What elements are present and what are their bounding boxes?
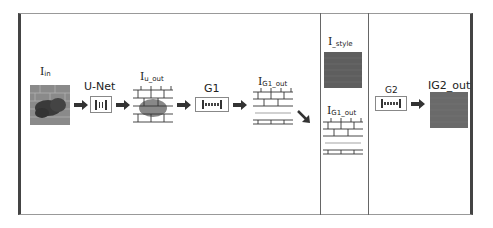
label-sub: G1_out <box>262 80 287 88</box>
label-sub: _style <box>332 40 352 48</box>
stage-divider-1 <box>320 13 321 215</box>
g2-block <box>375 96 407 111</box>
label-i-g1-out: IG1_out <box>258 75 287 88</box>
label-i-in: Iin <box>40 65 51 78</box>
diagonal-arrow-icon <box>297 110 311 124</box>
unet-block <box>90 96 112 113</box>
arrow-icon <box>74 100 88 110</box>
input-image-stained-brick <box>30 85 70 125</box>
label-i-g2-out: IG2_out <box>428 79 470 92</box>
g1-label: G1 <box>204 82 220 95</box>
diagram-frame <box>18 13 473 215</box>
g2-output-texture-image <box>430 92 468 128</box>
style-texture-image <box>324 52 362 88</box>
arrow-icon <box>411 99 425 109</box>
label-i-g1-out-stage2: IG1_out <box>327 104 356 117</box>
arrow-icon <box>116 100 130 110</box>
arrow-icon <box>177 100 191 110</box>
unet-output-brick-image <box>133 86 173 126</box>
label-sub: in <box>44 70 50 78</box>
unet-label: U-Net <box>84 80 115 93</box>
g2-label: G2 <box>385 85 398 95</box>
label-sub: G1_out <box>331 109 356 117</box>
label-i-style: I_style <box>328 35 353 48</box>
arrow-icon <box>233 100 247 110</box>
g1-block <box>195 97 229 112</box>
g1-output-brick-image-stage2 <box>323 118 363 156</box>
label-i-u-out: Iu_out <box>140 70 164 83</box>
label-sub: u_out <box>144 75 163 83</box>
g1-output-brick-image <box>253 88 293 126</box>
stage-divider-2 <box>368 13 369 215</box>
